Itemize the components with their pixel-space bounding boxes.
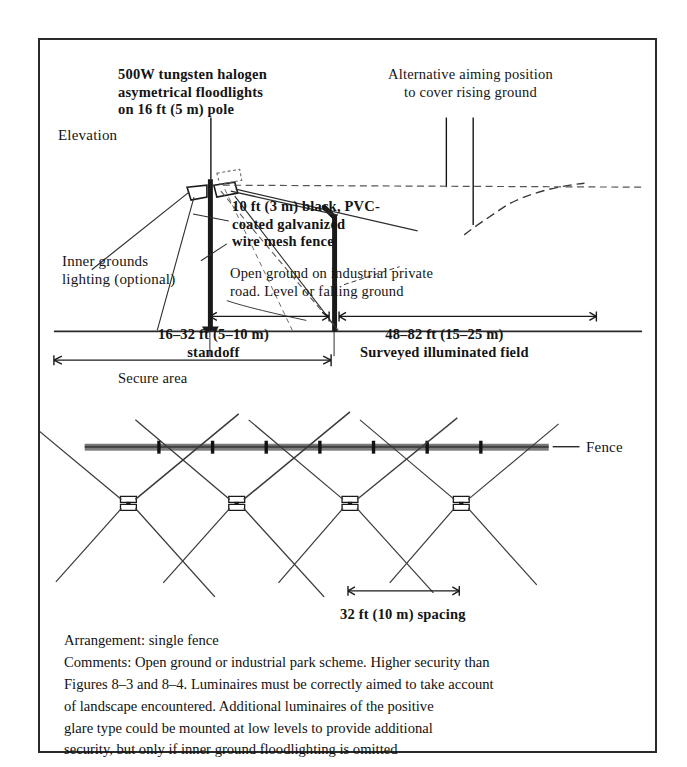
comments-note: Comments: Open ground or industrial park… <box>64 652 630 761</box>
plan-luminaire <box>120 496 136 510</box>
alternative-aiming-note: Alternative aiming position to cover ris… <box>388 66 553 101</box>
figure-frame: 500W tungsten halogen asymetrical floodl… <box>38 38 657 753</box>
spacing-dimension-label: 32 ft (10 m) spacing <box>340 606 466 624</box>
floodlight-right <box>214 182 238 197</box>
dimension-standoff <box>210 311 329 321</box>
beam-alt-horizon <box>223 185 642 187</box>
plan-luminaire <box>342 496 358 510</box>
arrangement-note: Arrangement: single fence <box>64 630 630 652</box>
rising-ground-profile <box>464 183 584 235</box>
surveyed-field-dimension-label: 48–82 ft (15–25 m) Surveyed illuminated … <box>360 326 529 361</box>
elevation-view-label: Elevation <box>58 126 117 144</box>
floodlight-note: 500W tungsten halogen asymetrical floodl… <box>118 66 267 119</box>
notes-block: Arrangement: single fence Comments: Open… <box>64 630 630 761</box>
dimension-spacing <box>348 586 459 596</box>
plan-luminaire <box>229 496 245 510</box>
plan-luminaire-group <box>40 412 559 597</box>
plan-fence-label: Fence <box>586 438 623 456</box>
floodlight-left <box>187 185 207 200</box>
leader-open-ground <box>227 301 306 321</box>
floodlight-alt-ghost <box>217 169 242 184</box>
fence-specification-note: 10 ft (3 m) black, PVC- coated galvanize… <box>232 198 380 251</box>
secure-area-dimension-label: Secure area <box>118 370 187 388</box>
open-ground-note: Open ground on industrial private road. … <box>230 265 433 300</box>
inner-grounds-lighting-note: Inner grounds lighting (optional) <box>62 252 175 289</box>
leader-fence-spec-2 <box>201 244 227 261</box>
dimension-surveyed-field <box>339 311 596 321</box>
plan-luminaire <box>453 496 469 510</box>
standoff-dimension-label: 16–32 ft (5–10 m) standoff <box>158 326 269 361</box>
plan-fence-core <box>85 446 549 448</box>
